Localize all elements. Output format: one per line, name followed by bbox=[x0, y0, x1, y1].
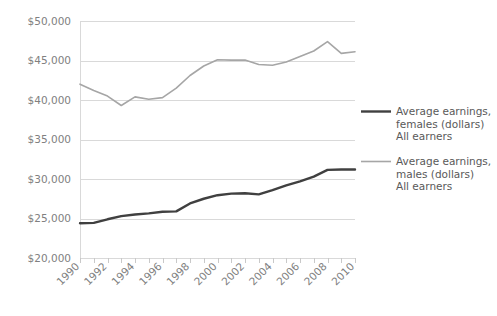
x-axis-tick-label: 2010 bbox=[329, 260, 356, 287]
x-axis-tick-label: 2004 bbox=[247, 260, 275, 288]
legend-label-females-line1: Average earnings, bbox=[396, 105, 491, 117]
x-axis-tick-label: 1990 bbox=[54, 260, 81, 287]
y-axis-tick-label: $20,000 bbox=[28, 252, 71, 264]
chart-legend: Average earnings,females (dollars)All ea… bbox=[361, 105, 491, 192]
y-axis-tick-label: $30,000 bbox=[28, 173, 71, 185]
x-axis-tick-label: 2006 bbox=[274, 260, 302, 288]
chart-container: $20,000$25,000$30,000$35,000$40,000$45,0… bbox=[0, 0, 497, 316]
legend-label-males-line1: Average earnings, bbox=[396, 155, 491, 167]
x-axis-tick-label: 1994 bbox=[109, 260, 137, 288]
x-axis-tick-label: 2002 bbox=[219, 260, 246, 287]
x-axis-tick-label: 1992 bbox=[82, 260, 109, 287]
x-axis-tick-label: 2000 bbox=[192, 260, 219, 287]
y-axis-tick-label: $25,000 bbox=[28, 212, 71, 224]
legend-label-females-line2: females (dollars) bbox=[396, 118, 484, 130]
x-axis-tick-label: 1998 bbox=[164, 260, 191, 287]
y-axis-tick-label: $50,000 bbox=[28, 15, 71, 27]
y-axis-tick-label: $45,000 bbox=[28, 54, 71, 66]
y-axis-tick-label: $35,000 bbox=[28, 133, 71, 145]
legend-label-females-line3: All earners bbox=[396, 130, 452, 142]
legend-label-males-line3: All earners bbox=[396, 180, 452, 192]
series-line-females bbox=[80, 170, 355, 224]
x-axis-tick-label: 1996 bbox=[137, 260, 165, 288]
x-axis-tick-label: 2008 bbox=[302, 260, 329, 287]
y-axis-labels-group: $20,000$25,000$30,000$35,000$40,000$45,0… bbox=[28, 15, 71, 264]
legend-label-males-line2: males (dollars) bbox=[396, 168, 474, 180]
x-axis-ticks-group bbox=[81, 258, 356, 263]
earnings-line-chart: $20,000$25,000$30,000$35,000$40,000$45,0… bbox=[0, 0, 497, 316]
gridlines-group bbox=[80, 21, 355, 259]
x-axis-labels-group: 1990199219941996199820002002200420062008… bbox=[54, 260, 356, 288]
series-line-males bbox=[80, 42, 355, 106]
data-series-group bbox=[80, 42, 355, 224]
y-axis-tick-label: $40,000 bbox=[28, 94, 71, 106]
